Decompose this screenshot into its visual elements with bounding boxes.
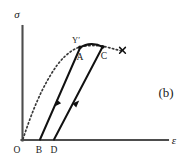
plastic-arc-yprime-to-c [80,44,103,48]
stress-strain-diagram: σ ε O B D Y′ A C (b) [0,0,192,164]
point-label-a: A [77,52,84,62]
sigma-axis-label: σ [14,8,20,20]
point-dot-c [101,45,105,49]
origin-label: O [14,145,21,155]
epsilon-axis-label: ε [172,134,177,146]
figure-container: σ ε O B D Y′ A C (b) [0,0,192,164]
point-label-yprime: Y′ [72,35,80,45]
point-dot-yprime [78,45,82,49]
point-label-d: D [51,145,58,155]
point-label-c: C [101,51,107,61]
panel-label: (b) [158,85,173,100]
point-label-b: B [36,145,42,155]
